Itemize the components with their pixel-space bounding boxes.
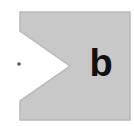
dot-marker — [17, 62, 21, 66]
figure-b: b — [0, 0, 134, 126]
figure-label: b — [86, 38, 116, 88]
